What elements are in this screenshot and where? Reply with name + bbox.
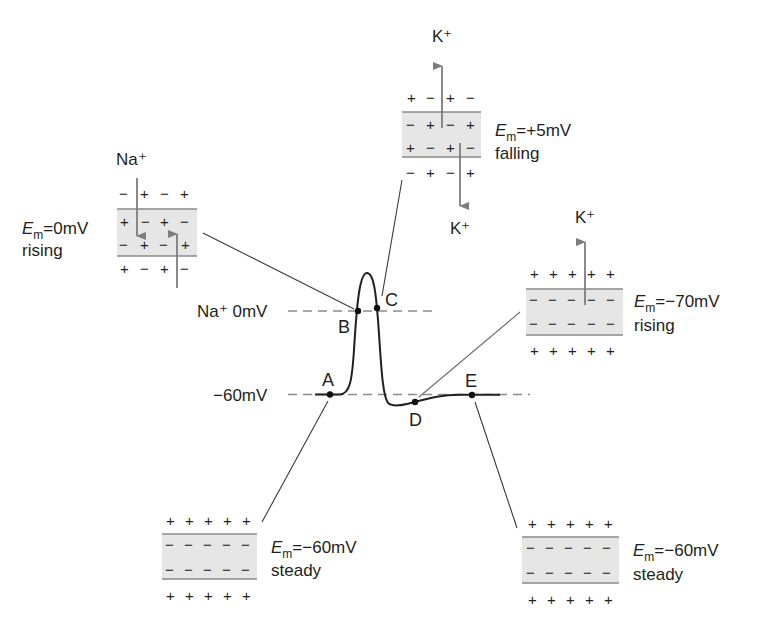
action-potential-diagram: Na⁺ 0mV −60mV A B C D E Na⁺ − + − + (0, 0, 763, 625)
svg-text:−: − (529, 315, 538, 332)
em-label: Em=−60mV (633, 541, 719, 564)
svg-text:+: + (181, 236, 190, 253)
svg-text:−: − (545, 539, 554, 556)
svg-text:+: + (566, 591, 575, 608)
svg-text:−: − (583, 564, 592, 581)
svg-text:−: − (119, 236, 128, 253)
na-ion-label: Na⁺ (116, 150, 147, 169)
state-label: rising (22, 241, 63, 260)
svg-text:−: − (160, 185, 169, 202)
svg-text:−: − (180, 213, 189, 230)
svg-text:+: + (547, 591, 556, 608)
svg-text:−: − (567, 315, 576, 332)
svg-text:+: + (223, 512, 232, 529)
svg-text:+: + (528, 515, 537, 532)
svg-text:−: − (119, 185, 128, 202)
svg-text:+: + (530, 265, 539, 282)
svg-text:−: − (222, 536, 231, 553)
svg-text:+: + (547, 515, 556, 532)
svg-text:−: − (406, 116, 415, 133)
svg-text:+: + (160, 213, 169, 230)
svg-text:+: + (120, 260, 129, 277)
svg-text:+: + (446, 89, 455, 106)
point-d-dot (412, 399, 418, 405)
zero-mv-label: Na⁺ 0mV (197, 302, 268, 321)
svg-text:+: + (566, 515, 575, 532)
svg-text:−: − (564, 564, 573, 581)
svg-text:+: + (606, 342, 615, 359)
leader-lines (203, 180, 520, 528)
svg-text:−: − (529, 291, 538, 308)
svg-text:−: − (606, 291, 615, 308)
svg-text:+: + (606, 265, 615, 282)
panel-steady-a: + + + + + − − − − − − − − − − + + + + + … (162, 512, 357, 604)
svg-text:+: + (204, 512, 213, 529)
svg-text:+: + (585, 591, 594, 608)
svg-text:−: − (446, 164, 455, 181)
panel-steady-e: + + + + + − − − − − − − − − − + + + + + … (522, 515, 719, 608)
svg-text:+: + (466, 164, 475, 181)
svg-text:+: + (549, 265, 558, 282)
panel-falling-peak: K⁺ + − + − − + − + + − + − − + − + K⁺ Em… (402, 27, 572, 238)
svg-text:−: − (526, 564, 535, 581)
svg-text:+: + (166, 587, 175, 604)
svg-text:+: + (446, 139, 455, 156)
svg-text:+: + (585, 515, 594, 532)
svg-text:−: − (406, 164, 415, 181)
em-label: Em=−70mV (634, 292, 720, 315)
svg-text:−: − (159, 236, 168, 253)
svg-text:+: + (160, 260, 169, 277)
svg-text:−: − (606, 315, 615, 332)
state-label: falling (495, 144, 539, 163)
svg-text:+: + (426, 116, 435, 133)
state-label: steady (271, 561, 322, 580)
svg-text:+: + (140, 185, 149, 202)
k-ion-bottom-label: K⁺ (450, 219, 470, 238)
svg-text:−: − (446, 116, 455, 133)
em-label: Em=+5mV (495, 121, 572, 144)
point-c-label: C (385, 290, 398, 310)
svg-text:−: − (426, 139, 435, 156)
svg-text:−: − (587, 315, 596, 332)
svg-text:−: − (426, 89, 435, 106)
svg-text:+: + (528, 591, 537, 608)
point-d-label: D (409, 410, 422, 430)
svg-text:+: + (185, 512, 194, 529)
svg-text:−: − (203, 561, 212, 578)
svg-text:−: − (165, 561, 174, 578)
svg-text:+: + (204, 587, 213, 604)
leader-c (382, 180, 402, 296)
svg-text:+: + (242, 587, 251, 604)
leader-b (203, 233, 354, 309)
point-b-dot (355, 308, 361, 314)
leader-a (262, 401, 328, 522)
svg-text:−: − (583, 539, 592, 556)
svg-text:+: + (406, 139, 415, 156)
svg-text:−: − (241, 561, 250, 578)
svg-text:+: + (466, 116, 475, 133)
em-label: Em=−60mV (271, 538, 357, 561)
svg-text:+: + (568, 342, 577, 359)
svg-text:+: + (426, 164, 435, 181)
svg-text:+: + (568, 265, 577, 282)
svg-text:−: − (526, 539, 535, 556)
svg-text:−: − (564, 539, 573, 556)
svg-text:−: − (203, 536, 212, 553)
svg-text:+: + (185, 587, 194, 604)
svg-text:−: − (165, 536, 174, 553)
svg-text:−: − (241, 536, 250, 553)
panel-rising-hyper: K⁺ + + + + + − − − − − − − − − − + + + +… (526, 208, 720, 359)
leader-e (475, 402, 517, 528)
panel-rising-zero: Na⁺ − + − + + − + − − + − + + − + − Em=0… (22, 150, 197, 288)
svg-text:−: − (466, 89, 475, 106)
point-e-dot (469, 392, 475, 398)
svg-text:−: − (548, 291, 557, 308)
k-ion-label: K⁺ (575, 208, 595, 227)
svg-text:+: + (604, 515, 613, 532)
svg-text:−: − (140, 260, 149, 277)
point-a-dot (327, 391, 333, 397)
svg-text:−: − (567, 291, 576, 308)
point-c-dot (374, 305, 380, 311)
svg-text:−: − (602, 564, 611, 581)
svg-text:−: − (141, 213, 150, 230)
